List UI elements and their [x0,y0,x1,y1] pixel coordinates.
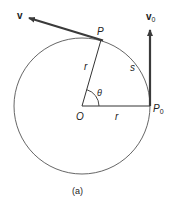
label-v: v [17,10,23,21]
label-r-op: r [84,61,88,72]
label-v0: v0 [146,11,156,23]
label-s: s [130,62,135,73]
label-theta: θ [97,88,102,98]
label-o: O [76,111,84,122]
label-r-op0: r [115,111,119,122]
velocity-v-arrow [29,18,103,41]
label-p0: P0 [153,103,164,115]
caption: (a) [72,186,83,196]
circular-motion-diagram: v v0 P P0 O r r s θ (a) [0,0,170,207]
label-p: P [97,26,104,37]
